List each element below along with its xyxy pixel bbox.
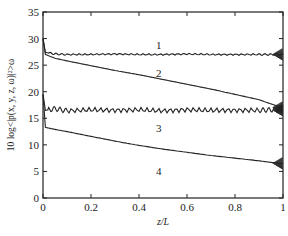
y-tick-label: 30 — [28, 33, 40, 45]
x-tick-label: 0 — [40, 201, 46, 213]
curve-label-3: 3 — [156, 122, 162, 134]
x-tick-label: 0.6 — [180, 201, 194, 213]
x-tick-label: 1 — [280, 201, 286, 213]
x-tick-label: 0.4 — [132, 201, 146, 213]
y-tick-label: 25 — [28, 59, 40, 71]
curve-label-1: 1 — [156, 39, 162, 51]
axis-ticks — [43, 12, 283, 198]
y-tick-label: 35 — [28, 6, 40, 18]
plot-frame — [43, 12, 283, 198]
y-tick-label: 0 — [34, 192, 40, 204]
curve-2 — [43, 39, 283, 108]
y-tick-label: 5 — [34, 165, 40, 177]
x-tick-label: 0.8 — [228, 201, 242, 213]
line-chart: 00.20.40.60.8105101520253035 1 2 3 4 z/L… — [0, 0, 288, 236]
curve-4-edge-oscillation — [273, 158, 283, 170]
curve-1 — [43, 39, 283, 56]
curve-1-edge-oscillation — [273, 49, 283, 61]
curve-4 — [43, 94, 283, 163]
curve-label-4: 4 — [156, 165, 162, 177]
y-axis-label: 10 log<|p(x, y, z, ω)|²>ω — [6, 59, 17, 151]
y-tick-label: 10 — [28, 139, 40, 151]
y-tick-label: 15 — [28, 112, 40, 124]
curve-label-2: 2 — [156, 67, 162, 79]
data-curves — [43, 39, 283, 170]
y-tick-label: 20 — [28, 86, 40, 98]
x-axis-label: z/L — [156, 216, 170, 227]
x-tick-label: 0.2 — [84, 201, 98, 213]
